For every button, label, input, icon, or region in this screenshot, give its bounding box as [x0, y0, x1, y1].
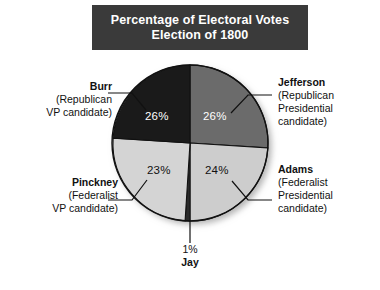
pie-slice-pinckney: [113, 138, 190, 221]
chart-figure: Percentage of Electoral Votes Election o…: [0, 0, 380, 290]
pie-label-adams-name: Adams: [278, 163, 333, 176]
pie-value-pinckney: 23%: [147, 164, 171, 176]
pie-label-jefferson: Jefferson (Republican Presidential candi…: [278, 76, 334, 128]
pie-label-jefferson-sub3: candidate): [278, 115, 334, 128]
pie-label-burr-name: Burr: [46, 80, 112, 93]
pie-value-burr: 26%: [145, 110, 169, 122]
pie-value-jefferson: 26%: [203, 110, 227, 122]
pie-slice-burr: [113, 65, 190, 143]
pie-value-adams: 24%: [205, 164, 229, 176]
pie-label-jay: 1% Jay: [150, 243, 230, 269]
pie-label-adams-sub2: Presidential: [278, 189, 333, 202]
pie-label-adams-sub1: (Federalist: [278, 176, 333, 189]
pie-slice-adams: [190, 143, 268, 221]
pie-label-jefferson-sub2: Presidential: [278, 102, 334, 115]
pie-label-burr-sub2: VP candidate): [46, 106, 112, 119]
pie-label-burr-sub1: (Republican: [46, 93, 112, 106]
pie-label-pinckney: Pinckney (Federalist VP candidate): [52, 176, 118, 215]
pie-label-burr: Burr (Republican VP candidate): [46, 80, 112, 119]
pie-label-pinckney-name: Pinckney: [52, 176, 118, 189]
pie-slice-jefferson: [190, 65, 268, 148]
pie-label-pinckney-sub1: (Federalist: [52, 189, 118, 202]
pie-label-pinckney-sub2: VP candidate): [52, 202, 118, 215]
pie-label-adams-sub3: candidate): [278, 202, 333, 215]
pie-value-jay: 1%: [150, 243, 230, 256]
pie-label-jefferson-name: Jefferson: [278, 76, 334, 89]
pie-label-jefferson-sub1: (Republican: [278, 89, 334, 102]
pie-label-adams: Adams (Federalist Presidential candidate…: [278, 163, 333, 215]
pie-label-jay-name: Jay: [150, 256, 230, 269]
